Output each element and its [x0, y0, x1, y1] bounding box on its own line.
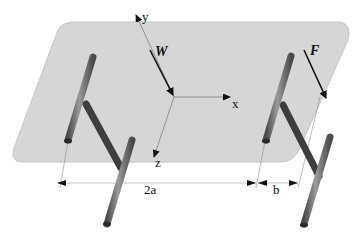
dimension-b-right-arrow [289, 180, 298, 186]
frame-diagram: y x z W F 2a b [0, 0, 358, 241]
dimension-b-label: b [273, 182, 280, 197]
left-lower-leg-end [103, 222, 111, 227]
force-W-label: W [155, 44, 169, 59]
right-front-leg-end [300, 223, 308, 228]
z-axis-label: z [155, 155, 161, 170]
dimension-2a-right-arrow [247, 180, 256, 186]
x-axis-label: x [232, 96, 239, 111]
left-rear-leg-end [64, 139, 72, 144]
right-rear-leg-end [262, 139, 270, 144]
dimension-2a-label: 2a [144, 182, 157, 197]
y-axis-label: y [142, 9, 149, 24]
force-F-label: F [309, 43, 320, 58]
dimension-b-left-arrow [258, 180, 267, 186]
